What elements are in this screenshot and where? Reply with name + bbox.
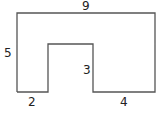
- label-bottom-right: 4: [120, 96, 128, 108]
- label-notch-height: 3: [83, 64, 91, 76]
- shape-outline: [17, 13, 155, 92]
- label-bottom-left: 2: [28, 96, 36, 108]
- shape-figure: [0, 0, 161, 117]
- label-top-width: 9: [82, 0, 90, 12]
- label-left-height: 5: [4, 47, 12, 59]
